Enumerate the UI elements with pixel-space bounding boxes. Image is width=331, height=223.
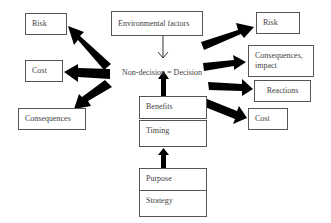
right-consequences-box: Consequences, impact	[248, 45, 314, 77]
right-reactions-box: Reactions	[254, 80, 311, 102]
left-risk-label: Risk	[32, 19, 47, 28]
left-consequences-box: Consequences	[18, 108, 86, 130]
environmental-factors-box: Environmental factors	[111, 11, 203, 36]
arrow-to-right-cost	[205, 99, 247, 124]
right-risk-box: Risk	[256, 12, 300, 34]
left-cost-box: Cost	[25, 60, 63, 82]
strategy-label: Strategy	[146, 196, 173, 205]
benefits-label: Benefits	[146, 102, 173, 111]
center-decision-label: Non-decision = Decision	[122, 68, 202, 77]
left-cost-label: Cost	[32, 66, 47, 75]
left-risk-box: Risk	[25, 13, 67, 35]
timing-label: Timing	[146, 126, 169, 135]
right-cost-box: Cost	[248, 108, 288, 130]
purpose-up-arrow	[158, 148, 169, 168]
environmental-factors-label: Environmental factors	[118, 19, 189, 28]
decision-diagram: Environmental factors Non-decision = Dec…	[0, 0, 331, 223]
right-arrows	[201, 23, 254, 124]
purpose-label: Purpose	[146, 174, 172, 183]
right-cost-label: Cost	[255, 114, 270, 123]
arrow-to-right-consequences	[203, 55, 246, 71]
arrow-to-right-reactions	[208, 79, 253, 96]
env-thin-arrow	[158, 36, 168, 58]
purpose-box: Purpose	[139, 168, 207, 191]
arrow-to-left-consequences	[74, 80, 112, 109]
benefits-box: Benefits	[139, 96, 207, 119]
strategy-box: Strategy	[139, 190, 207, 217]
right-consequences-label: Consequences, impact	[255, 51, 303, 70]
left-consequences-label: Consequences	[25, 114, 71, 123]
timing-box: Timing	[139, 120, 207, 147]
arrow-to-left-risk	[68, 26, 111, 70]
left-arrows	[64, 26, 112, 109]
right-risk-label: Risk	[263, 18, 278, 27]
arrow-to-right-risk	[201, 23, 254, 50]
right-reactions-label: Reactions	[267, 86, 299, 95]
